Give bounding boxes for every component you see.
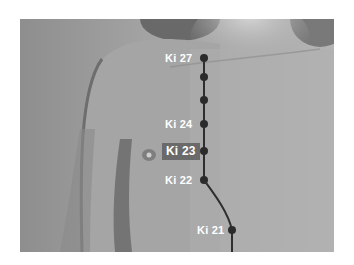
point-ki24-dot — [200, 120, 208, 128]
kidney-meridian-line — [204, 58, 232, 252]
label-ki23-highlighted: Ki 23 — [162, 143, 200, 160]
point-ki25-dot — [200, 96, 208, 104]
label-ki22: Ki 22 — [165, 174, 192, 187]
label-ki27: Ki 27 — [165, 52, 192, 65]
point-ki22-dot — [200, 176, 208, 184]
meridian-overlay — [0, 0, 354, 265]
label-ki21: Ki 21 — [197, 224, 224, 237]
point-ki21-dot — [228, 226, 236, 234]
label-ki24: Ki 24 — [165, 118, 192, 131]
point-ki27-dot — [200, 54, 208, 62]
point-ki23-dot — [200, 147, 208, 155]
point-ki26-dot — [200, 73, 208, 81]
